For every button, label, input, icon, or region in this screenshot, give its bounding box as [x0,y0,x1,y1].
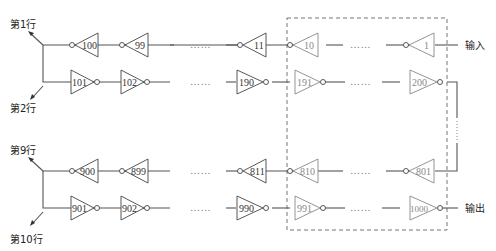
inverter-bubble [145,80,150,85]
inverter-bubble [95,206,100,211]
label-row2: 第2行 [10,102,36,114]
right-connector-top [447,82,457,118]
ellipsis: …… [190,39,211,50]
inverter-bubble [95,80,100,85]
left-connector-top [43,45,70,82]
gate-label: 1 [424,40,429,51]
left-connector-bottom [43,171,70,208]
inverter-bubble [438,206,443,211]
row-10: 901 902 …… 990 991 …… 1000 [70,196,443,220]
gate-label: 190 [239,77,254,88]
gate-label: 990 [239,203,254,214]
ellipsis: …… [350,39,371,50]
label-input: 输入 [465,39,485,51]
label-row9: 第9行 [10,144,36,156]
gate-label: 810 [300,166,315,177]
row-1: 100 99 …… 11 10 …… 1 [70,33,435,57]
inverter-bubble [438,80,443,85]
ellipsis: …… [190,165,211,176]
arrow-row2 [33,86,43,97]
gate-label: 101 [72,77,87,88]
inverter-bubble [145,206,150,211]
label-row1: 第1行 [10,18,36,30]
gate-label: 1000 [410,204,429,214]
inverter-bubble [321,206,326,211]
inverter-bubble [288,169,293,174]
inverter-bubble [264,206,269,211]
gate-label: 899 [131,166,146,177]
gate-label: 901 [72,203,87,214]
ellipsis: …… [350,202,371,213]
inverter-bubble [404,43,409,48]
inverter-bubble [238,169,243,174]
gate-label: 11 [254,40,264,51]
inverter-bubble [120,43,125,48]
inverter-bubble [288,43,293,48]
inverter-bubble [404,169,409,174]
gate-label: 102 [122,77,137,88]
inverter-bubble [238,43,243,48]
gate-label: 200 [412,77,427,88]
inverter-1 [409,33,434,57]
inverter-bubble [70,43,75,48]
ellipsis: …… [190,202,211,213]
gate-label: 902 [122,203,137,214]
gate-label: 100 [82,40,97,51]
ellipsis: …… [350,165,371,176]
gate-label: 10 [304,40,314,51]
gate-label: 991 [297,203,312,214]
label-output: 输出 [465,202,485,214]
right-connector-bottom [435,143,457,171]
gate-label: 900 [80,166,95,177]
inverter-bubble [321,80,326,85]
inverter-bubble [120,169,125,174]
arrow-row10 [33,212,43,223]
gate-label: 191 [297,77,312,88]
ring-oscillator-diagram: 100 99 …… 11 10 …… 1 101 102 …… [0,0,496,251]
ellipsis: …… [190,76,211,87]
row-9: 900 899 …… 811 810 …… 801 [70,159,435,183]
gate-label: 811 [250,166,265,177]
inverter-bubble [264,80,269,85]
label-row10: 第10行 [10,233,43,245]
gate-label: 801 [416,166,431,177]
gate-label: 99 [135,40,145,51]
row-2: 101 102 …… 190 191 …… 200 [70,70,443,94]
ellipsis: …… [350,76,371,87]
inverter-bubble [70,169,75,174]
